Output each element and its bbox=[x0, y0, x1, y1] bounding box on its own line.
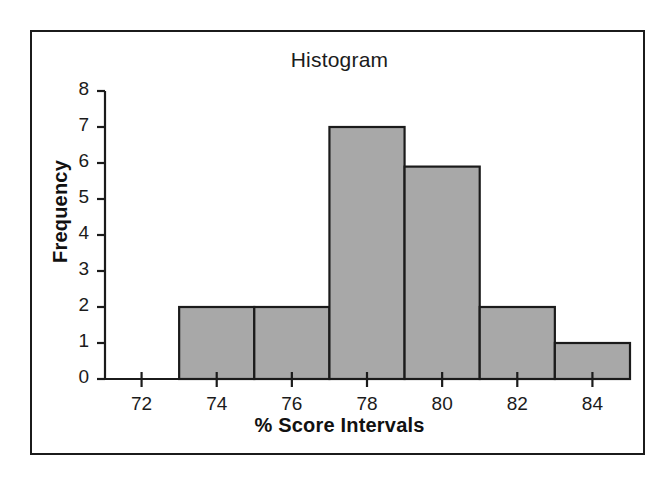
bars-group bbox=[179, 127, 630, 379]
histogram-bar bbox=[405, 167, 480, 379]
histogram-bar bbox=[480, 307, 555, 379]
histogram-bar bbox=[254, 307, 329, 379]
histogram-plot bbox=[32, 32, 647, 457]
figure-canvas: Histogram Frequency % Score Intervals 01… bbox=[0, 0, 671, 480]
chart-frame: Histogram Frequency % Score Intervals 01… bbox=[30, 30, 645, 455]
histogram-bar bbox=[329, 127, 404, 379]
histogram-bar bbox=[179, 307, 254, 379]
